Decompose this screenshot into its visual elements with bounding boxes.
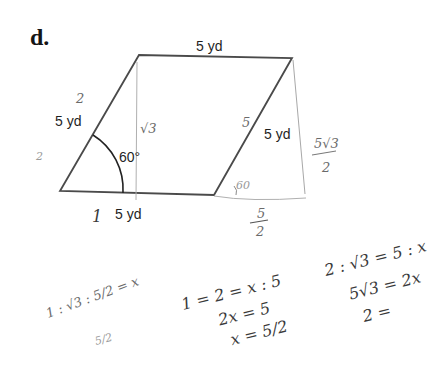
side-label-bottom: 5 yd <box>115 206 141 222</box>
left-work: 1 : √3 : 5/2 = x <box>44 273 141 321</box>
right-side-mark: 5 <box>242 115 250 130</box>
exterior-height-line <box>293 60 305 194</box>
right-height-denominator: 2 <box>321 160 330 175</box>
height-line <box>136 62 137 200</box>
right-height-fraction-bar <box>312 151 336 155</box>
right-height-numerator: 5√3 <box>314 136 339 151</box>
exterior-base-line <box>214 196 306 200</box>
side-label-left: 5 yd <box>55 113 81 129</box>
height-mark: √3 <box>140 121 157 136</box>
left-side-mark: 2 <box>75 91 84 106</box>
left-outside-mark: 2 <box>35 150 43 163</box>
bottom-ext-numerator: 5 <box>257 206 265 221</box>
left-equation: 1 : √3 : 5/2 = x <box>44 273 141 321</box>
right-equation-3: 2 = <box>360 301 393 327</box>
bottom-mark: 1 <box>92 207 102 226</box>
parallelogram-shape <box>60 55 292 195</box>
left-subequation: 5/2 <box>93 331 113 348</box>
left-sub-work: 5/2 <box>93 331 113 348</box>
middle-work: 1 = 2 = x : 5 2x = 5 x = 5/2 <box>179 271 294 359</box>
side-label-top: 5 yd <box>196 38 222 54</box>
exterior-angle-mark: 60 <box>236 179 250 192</box>
side-label-right: 5 yd <box>264 126 290 142</box>
right-equation-2: 5√3 = 2x <box>347 267 423 303</box>
diagram-canvas: d. 5 yd 5 yd 5 yd 5 yd 60° 2 2 √3 5 60 5… <box>0 0 447 386</box>
right-work: 2 : √3 = 5 : x 5√3 = 2x 2 = <box>321 236 441 332</box>
bottom-ext-denominator: 2 <box>255 224 264 239</box>
angle-label: 60° <box>119 149 140 165</box>
problem-label: d. <box>30 24 49 50</box>
